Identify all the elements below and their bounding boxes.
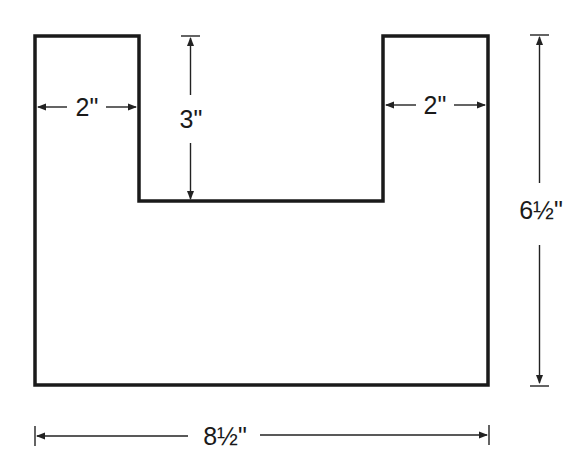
notch-depth-dimension: 3" bbox=[180, 36, 203, 200]
arrowhead-right bbox=[477, 102, 486, 109]
total-width-label: 8½" bbox=[203, 422, 247, 450]
arrowhead-up bbox=[536, 36, 543, 45]
total-height-label: 6½" bbox=[519, 196, 563, 224]
arrowhead-down bbox=[536, 375, 543, 384]
u-shape-diagram: 2" 2" 3" 6½" 8½" bbox=[0, 0, 587, 470]
left-arm-width-label: 2" bbox=[76, 93, 99, 121]
arrowhead-left bbox=[37, 104, 46, 111]
notch-depth-label: 3" bbox=[180, 105, 203, 133]
arrowhead-right bbox=[479, 432, 488, 439]
u-shape-outline bbox=[35, 36, 488, 385]
arrowhead-left bbox=[385, 102, 394, 109]
total-width-dimension: 8½" bbox=[35, 422, 489, 450]
arrowhead-left bbox=[36, 433, 45, 440]
total-height-dimension: 6½" bbox=[519, 35, 563, 386]
right-arm-width-dimension: 2" bbox=[385, 91, 486, 119]
left-arm-width-dimension: 2" bbox=[37, 93, 137, 121]
arrowhead-right bbox=[128, 104, 137, 111]
arrowhead-up bbox=[187, 37, 194, 46]
arrowhead-down bbox=[187, 191, 194, 200]
right-arm-width-label: 2" bbox=[424, 91, 447, 119]
